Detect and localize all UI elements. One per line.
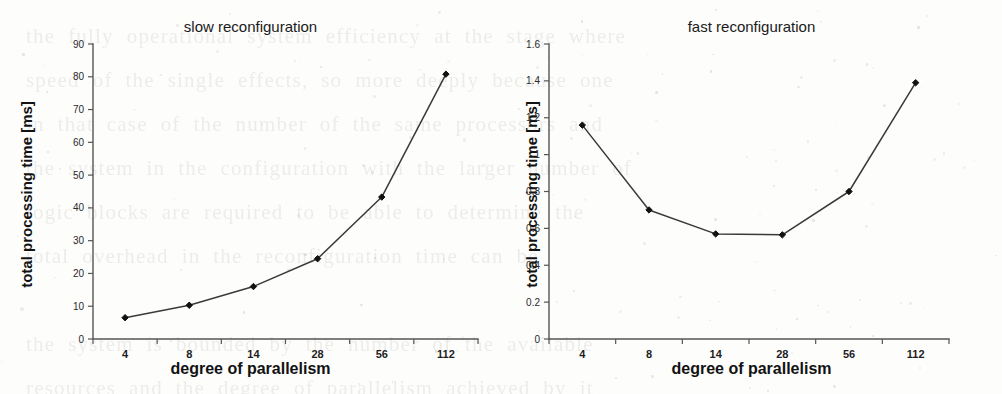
x-tick-label: 14 (710, 348, 723, 360)
data-point-marker (443, 71, 449, 77)
chart-panel-fast-reconfiguration: fast reconfiguration total processing ti… (501, 0, 1002, 394)
x-tick-label: 28 (776, 348, 788, 360)
y-tick-label: 1.4 (526, 75, 540, 86)
y-tick-label: 40 (73, 202, 85, 213)
data-series-line (125, 74, 446, 318)
data-point-marker (122, 314, 128, 320)
y-tick-label: 0.4 (526, 260, 540, 271)
y-tick-label: 1.2 (526, 112, 540, 123)
y-tick-label: 80 (73, 71, 85, 82)
x-tick-label: 14 (247, 348, 260, 360)
y-tick-label: 1.6 (526, 39, 540, 50)
y-tick-label: 60 (73, 137, 85, 148)
y-tick-label: 20 (73, 268, 85, 279)
x-tick-label: 112 (437, 348, 455, 360)
y-tick-label: 50 (73, 170, 85, 181)
x-tick-label: 56 (376, 348, 388, 360)
x-tick-label: 4 (122, 348, 129, 360)
y-tick-label: 90 (73, 39, 85, 50)
y-tick-label: 0.2 (526, 297, 540, 308)
figure-page: the fully operational system efficiency … (0, 0, 1002, 394)
y-tick-label: 70 (73, 104, 85, 115)
y-tick-label: 0 (78, 334, 84, 345)
chart-panel-slow-reconfiguration: slow reconfiguration total processing ti… (0, 0, 501, 394)
x-tick-label: 28 (311, 348, 323, 360)
data-series-line (582, 83, 915, 235)
x-tick-label: 8 (186, 348, 192, 360)
x-tick-label: 8 (646, 348, 652, 360)
x-tick-label: 56 (843, 348, 855, 360)
y-tick-label: 1 (534, 149, 540, 160)
plot-area-fast: 00.20.40.60.811.21.41.648142856112 (501, 0, 1002, 394)
y-tick-label: 30 (73, 235, 85, 246)
y-tick-label: 0.8 (526, 186, 540, 197)
data-point-marker (712, 231, 718, 237)
data-point-marker (250, 283, 256, 289)
y-tick-label: 0.6 (526, 223, 540, 234)
plot-area-slow: 010203040506070809048142856112 (0, 0, 501, 394)
x-tick-label: 4 (579, 348, 586, 360)
y-tick-label: 10 (73, 301, 85, 312)
data-point-marker (186, 302, 192, 308)
y-tick-label: 0 (534, 334, 540, 345)
x-tick-label: 112 (907, 348, 925, 360)
